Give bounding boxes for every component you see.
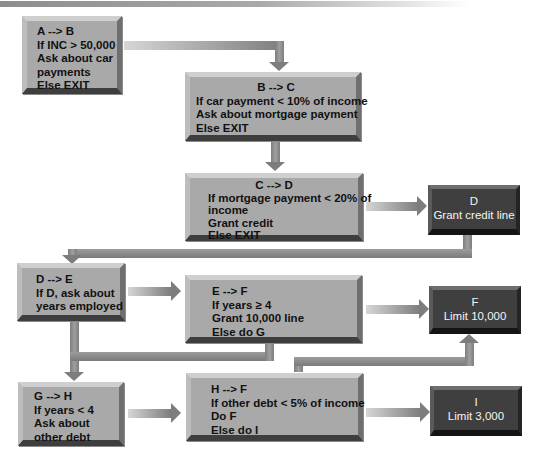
- node-text-line: Else EXIT: [196, 122, 356, 136]
- node-f-limit-10000: F Limit 10,000: [429, 286, 521, 334]
- arrow-up-icon: [459, 334, 479, 343]
- connector-a-b-vertical: [275, 41, 284, 63]
- arrow-down-icon: [269, 62, 289, 71]
- connector-c-d: [366, 202, 418, 211]
- arrow-right-icon: [171, 281, 181, 301]
- node-title: C --> D: [190, 179, 358, 192]
- node-text-line: Else do G: [212, 326, 357, 340]
- node-text-line: Ask about mortgage payment: [196, 108, 356, 122]
- node-text-line: Ask about car: [37, 52, 117, 66]
- node-text-line: Limit 3,000: [434, 409, 518, 423]
- connector-hf-f-vertical-2: [465, 343, 474, 366]
- node-text-line: years employed: [36, 300, 120, 314]
- node-text-line: Else EXIT: [37, 79, 117, 93]
- node-g-to-h: G --> H If years < 4 Ask about other deb…: [18, 382, 124, 446]
- connector-ef-gh-horizontal: [70, 352, 274, 361]
- node-h-to-f: H --> F If other debt < 5% of income Do …: [186, 373, 363, 441]
- connector-gh-hf: [128, 409, 171, 418]
- node-text-line: Do F: [211, 410, 358, 424]
- connector-b-c: [271, 141, 280, 163]
- arrow-right-icon: [420, 402, 430, 422]
- node-title: B --> C: [196, 81, 356, 95]
- node-text-line: other debt: [34, 431, 119, 445]
- node-text-line: If years ≥ 4: [212, 299, 357, 313]
- arrow-right-icon: [419, 299, 429, 319]
- connector-d-e-horizontal: [68, 249, 472, 258]
- node-text-line: Grant credit: [208, 217, 358, 230]
- node-text-line: Ask about: [34, 417, 119, 431]
- connector-hf-i: [366, 408, 421, 417]
- node-text-line: Else do I: [211, 424, 358, 438]
- node-a-to-b: A --> B If INC > 50,000 Ask about car pa…: [22, 16, 122, 94]
- node-text-line: If other debt < 5% of income: [211, 397, 358, 411]
- node-title: F: [433, 295, 517, 309]
- node-text-line: H --> F: [211, 383, 358, 397]
- node-title: D: [432, 194, 516, 208]
- node-text-line: Limit 10,000: [433, 309, 517, 323]
- arrow-right-icon: [171, 403, 181, 423]
- node-b-to-c: B --> C If car payment < 10% of income A…: [185, 72, 361, 141]
- node-text-line: D --> E: [36, 273, 120, 287]
- flowchart-canvas: A --> B If INC > 50,000 Ask about car pa…: [0, 0, 534, 459]
- node-i-limit-3000: I Limit 3,000: [430, 386, 522, 436]
- node-d-to-e: D --> E If D, ask about years employed: [17, 263, 125, 321]
- node-text-line: G --> H: [34, 390, 119, 404]
- node-c-to-d: C --> D If mortgage payment < 20% of inc…: [185, 173, 363, 241]
- node-d-grant-credit-line: D Grant credit line: [428, 185, 520, 235]
- arrow-down-icon: [64, 372, 84, 381]
- arrow-down-icon: [265, 162, 285, 171]
- node-text-line: Grant credit line: [432, 208, 516, 222]
- node-text-line: income: [208, 204, 358, 217]
- node-text-line: If years < 4: [34, 404, 119, 418]
- node-text-line: E --> F: [212, 285, 357, 299]
- connector-de-gh-vertical: [70, 321, 79, 372]
- node-text-line: If D, ask about: [36, 287, 120, 301]
- arrow-right-icon: [417, 196, 427, 216]
- node-text-line: If mortgage payment < 20% of: [208, 192, 358, 205]
- connector-ef-gh-vertical: [265, 343, 274, 361]
- node-text-line: If car payment < 10% of income: [196, 95, 356, 109]
- node-title: I: [434, 395, 518, 409]
- connector-a-b-horizontal: [124, 41, 284, 50]
- top-decorative-bar: [0, 1, 470, 7]
- node-text-line: Else EXIT: [208, 229, 358, 242]
- node-text-line: Grant 10,000 line: [212, 312, 357, 326]
- connector-ef-f: [366, 305, 420, 314]
- connector-hf-f-horizontal: [294, 357, 474, 366]
- connector-de-ef: [128, 287, 171, 296]
- node-text-line: payments: [37, 66, 117, 80]
- node-text-line: If INC > 50,000: [37, 39, 117, 53]
- node-text-line: A --> B: [37, 25, 117, 39]
- node-e-to-f: E --> F If years ≥ 4 Grant 10,000 line E…: [185, 275, 362, 343]
